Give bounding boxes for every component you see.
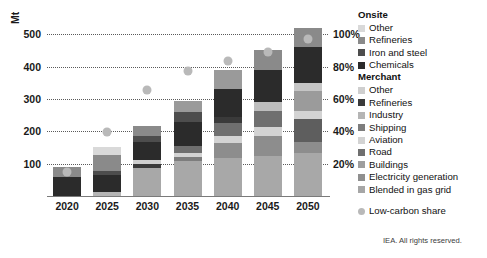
bar-segment [214, 158, 242, 196]
legend-item-label: Refineries [369, 34, 412, 46]
bar-segment [294, 83, 322, 90]
legend-item: Aviation [358, 134, 487, 146]
legend-swatch-icon [358, 62, 365, 69]
y-axis-right-tick-label: 60% [333, 93, 354, 105]
legend-item: Iron and steel [358, 47, 487, 59]
legend-item: Refineries [358, 97, 487, 109]
bar-segment [254, 127, 282, 137]
legend-swatch-icon [358, 137, 365, 144]
legend-item-label: Aviation [369, 134, 403, 146]
plot-area [47, 18, 328, 196]
legend-item-label: Industry [369, 109, 403, 121]
legend-item-label: Electricity generation [369, 171, 458, 183]
legend-item: Blended in gas grid [358, 184, 487, 196]
bar-2045[interactable] [254, 50, 282, 196]
bar-segment [214, 89, 242, 117]
x-axis-tick-label: 2040 [216, 200, 239, 212]
x-axis-tick-label: 2025 [96, 200, 119, 212]
bar-segment [174, 101, 202, 112]
legend-swatch-icon [358, 112, 365, 119]
legend-item-label: Blended in gas grid [369, 184, 451, 196]
y-axis-right-tick-label: 40% [333, 125, 354, 137]
bar-segment [254, 70, 282, 102]
bar-segment [214, 70, 242, 89]
bar-segment [174, 153, 202, 157]
x-axis-tick-label: 2020 [55, 200, 78, 212]
bar-2040[interactable] [214, 70, 242, 196]
x-axis-tick-label: 2030 [136, 200, 159, 212]
bar-segment [254, 111, 282, 127]
legend-item: Industry [358, 109, 487, 121]
legend-group-low-carbon: Low-carbon share [358, 205, 487, 217]
legend-item-label: Chemicals [369, 59, 414, 71]
bar-segment [133, 126, 161, 135]
bar-segment [214, 143, 242, 158]
bar-segment [133, 164, 161, 168]
x-axis-baseline [47, 196, 330, 197]
low-carbon-share-marker [303, 34, 312, 43]
bar-segment [133, 142, 161, 161]
low-carbon-dot-icon [358, 208, 365, 215]
chart-figure: 100200300400500 Mt 20%40%60%80%100% 2020… [0, 0, 487, 258]
legend-swatch-icon [358, 25, 365, 32]
chart-legend: Onsite OtherRefineriesIron and steelChem… [358, 9, 487, 217]
legend-item: Other [358, 84, 487, 96]
y-axis-tick-label: 200 [23, 125, 41, 137]
legend-item-label: Road [369, 146, 392, 158]
bar-segment [214, 123, 242, 136]
x-axis-tick-label: 2035 [176, 200, 199, 212]
y-axis-tick-label: 300 [23, 93, 41, 105]
bar-segment [93, 175, 121, 192]
legend-item-label: Low-carbon share [369, 205, 446, 217]
bar-segment [254, 136, 282, 155]
y-axis-tick-label: 400 [23, 61, 41, 73]
bar-segment [214, 136, 242, 143]
bar-segment [174, 161, 202, 196]
legend-item-label: Other [369, 84, 393, 96]
bar-segment [53, 177, 81, 196]
bar-segment [294, 91, 322, 111]
legend-swatch-icon [358, 37, 365, 44]
bar-segment [174, 122, 202, 146]
bar-segment [93, 147, 121, 154]
legend-group-merchant: OtherRefineriesIndustryShippingAviationR… [358, 84, 487, 196]
bar-segment [294, 119, 322, 142]
legend-swatch-icon [358, 149, 365, 156]
bar-2030[interactable] [133, 126, 161, 196]
y-axis-right-tick-label: 100% [333, 28, 360, 40]
copyright-notice: IEA. All rights reserved. [383, 236, 462, 245]
legend-item: Refineries [358, 34, 487, 46]
low-carbon-share-marker [103, 127, 112, 136]
bar-segment [294, 142, 322, 153]
legend-item-label: Refineries [369, 97, 412, 109]
legend-swatch-icon [358, 186, 365, 193]
bar-2035[interactable] [174, 101, 202, 196]
legend-item-label: Buildings [369, 159, 408, 171]
legend-item-label: Other [369, 22, 393, 34]
bar-segment [174, 112, 202, 122]
legend-swatch-icon [358, 124, 365, 131]
legend-item: Electricity generation [358, 171, 487, 183]
legend-swatch-icon [358, 49, 365, 56]
legend-group-onsite: OtherRefineriesIron and steelChemicals [358, 22, 487, 72]
legend-swatch-icon [358, 161, 365, 168]
bar-segment [294, 111, 322, 119]
y-axis-right-tick-label: 20% [333, 158, 354, 170]
legend-item: Chemicals [358, 59, 487, 71]
legend-item: Buildings [358, 159, 487, 171]
low-carbon-share-marker [263, 47, 272, 56]
y-axis-tick-label: 100 [23, 158, 41, 170]
legend-item-low-carbon-share: Low-carbon share [358, 205, 487, 217]
bar-2050[interactable] [294, 28, 322, 196]
legend-item-label: Shipping [369, 122, 406, 134]
bar-segment [294, 47, 322, 83]
x-axis: 2020202520302035204020452050 [47, 198, 328, 216]
low-carbon-share-marker [223, 57, 232, 66]
legend-item: Road [358, 146, 487, 158]
bar-2025[interactable] [93, 147, 121, 196]
bar-segment [214, 117, 242, 123]
bar-segment [254, 156, 282, 196]
legend-swatch-icon [358, 174, 365, 181]
legend-item: Other [358, 22, 487, 34]
y-axis-title: Mt [9, 12, 21, 24]
